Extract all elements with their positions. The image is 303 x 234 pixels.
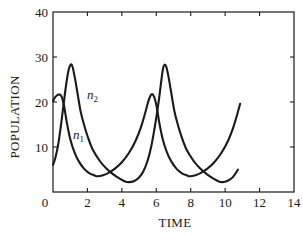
series-lines — [53, 64, 240, 182]
x-tick-label: 2 — [84, 195, 91, 210]
x-tick-label: 12 — [253, 195, 266, 210]
x-tick-label: 0 — [42, 195, 49, 210]
y-axis-label: POPULATION — [7, 75, 22, 158]
x-tick-label: 10 — [219, 195, 232, 210]
y-tick-labels: 10203040 — [35, 5, 48, 155]
x-tick-labels: 02468101214 — [42, 195, 301, 210]
x-tick-label: 14 — [288, 195, 302, 210]
x-tick-label: 8 — [187, 195, 194, 210]
y-tick-label: 40 — [35, 5, 48, 20]
curve-label-n1: n1 — [73, 127, 84, 144]
curve-label-n2: n2 — [87, 87, 98, 104]
curve-labels: n1n2 — [73, 87, 98, 144]
y-tick-label: 20 — [35, 95, 48, 110]
population-time-chart: 02468101214 10203040 n1n2 TIME POPULATIO… — [0, 0, 303, 234]
x-tick-label: 4 — [119, 195, 126, 210]
x-axis-label: TIME — [159, 215, 192, 230]
y-tick-label: 30 — [35, 50, 48, 65]
y-tick-label: 10 — [35, 140, 48, 155]
x-tick-label: 6 — [153, 195, 160, 210]
